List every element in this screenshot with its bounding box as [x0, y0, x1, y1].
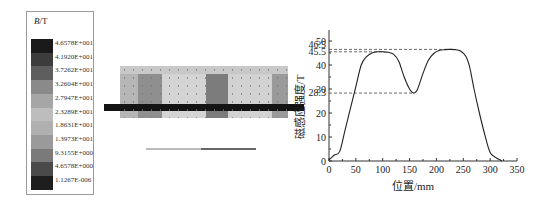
y-tick-label: 0 [321, 156, 326, 167]
x-tick-label: 200 [429, 164, 444, 175]
y-tick-label: 20 [316, 108, 326, 119]
reference-label: 28.3 [309, 87, 327, 98]
x-tick-label: 250 [456, 164, 471, 175]
x-tick-label: 150 [402, 164, 417, 175]
data-line [329, 49, 502, 161]
x-tick-label: 100 [375, 164, 390, 175]
x-tick-label: 300 [483, 164, 498, 175]
x-axis-label: 位置/mm [392, 179, 435, 192]
x-tick-label: 0 [327, 164, 332, 175]
line-chart: 0501001502002503003500102030405046.545.5… [0, 0, 549, 202]
y-tick-label: 10 [316, 132, 326, 143]
x-tick-label: 350 [510, 164, 525, 175]
x-tick-label: 50 [351, 164, 361, 175]
reference-label: 45.5 [309, 46, 327, 57]
y-axis-label: 磁感应强度/T [293, 74, 306, 139]
y-tick-label: 40 [316, 60, 326, 71]
